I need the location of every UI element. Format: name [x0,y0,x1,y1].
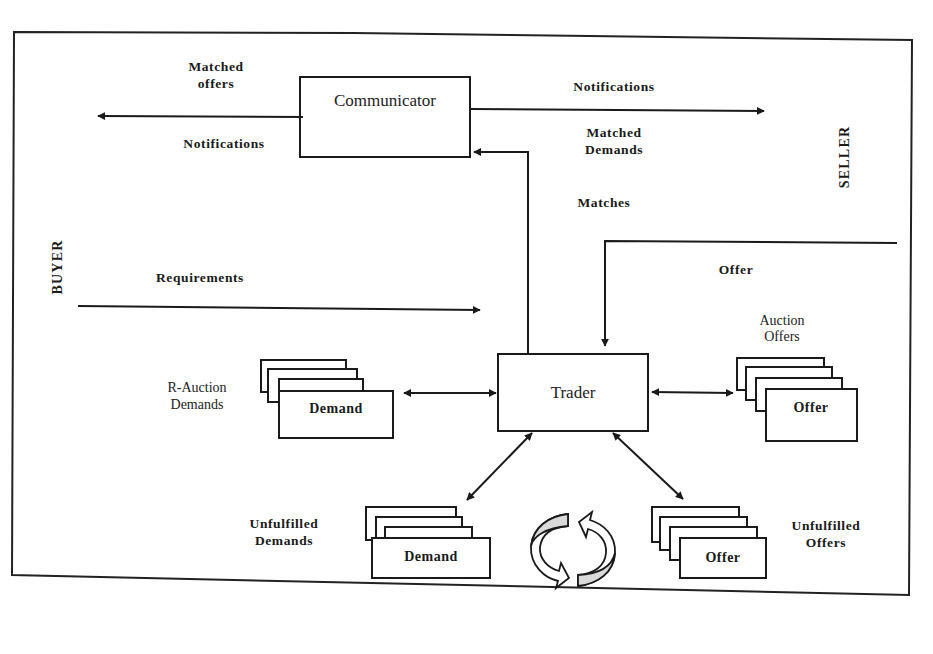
unfulfilled-demands-caption-1: Unfulfilled [250,516,319,531]
auction-offers-caption-2: Offers [764,329,800,344]
unfulfilled-demand-card-label: Demand [404,549,458,564]
trader-unfulfilled-offers-arrow [613,433,683,499]
unfulfilled-offers-store: Offer Unfulfilled Offers [652,507,860,578]
offer-label: Offer [719,262,753,277]
auction-offer-card-label: Offer [793,400,828,415]
r-auction-demands-caption-1: R-Auction [167,380,226,395]
r-auction-demand-card-label: Demand [309,401,363,416]
flow-requirements: Requirements [78,270,480,310]
unfulfilled-offers-caption-2: Offers [806,535,846,550]
buyer-label: BUYER [50,239,65,294]
seller-label: SELLER [837,126,852,188]
trading-system-diagram: BUYER SELLER Communicator Matched offers… [0,0,933,654]
r-auction-demands-caption-2: Demands [171,397,224,412]
auction-offers-caption-1: Auction [759,313,804,328]
trader-offer-arrow [652,392,733,393]
flow-offer: Offer [605,241,897,346]
unfulfilled-offers-caption-1: Unfulfilled [792,518,861,533]
notifications-right-label: Notifications [573,79,654,94]
unfulfilled-demands-store: Demand Unfulfilled Demands [250,507,490,578]
flow-matches: Matches [474,152,630,353]
r-auction-demands-store: Demand R-Auction Demands [167,360,393,438]
trader-unfulfilled-demands-arrow [467,433,532,500]
unfulfilled-demands-caption-2: Demands [255,533,313,548]
matched-demands-label-1: Matched [586,125,641,140]
requirements-label: Requirements [156,270,244,285]
auction-offers-store: Offer Auction Offers [737,313,857,441]
communicator-box: Communicator [300,77,470,157]
trader-box: Trader [498,354,648,431]
matches-label: Matches [578,195,631,210]
flow-to-seller: Notifications Matched Demands [471,79,764,157]
communicator-title: Communicator [334,91,436,110]
flow-to-buyer: Matched offers Notifications [98,59,303,151]
notifications-left-label: Notifications [183,136,264,151]
matched-demands-label-2: Demands [585,142,643,157]
unfulfilled-offer-card-label: Offer [705,550,740,565]
refresh-cycle-icon [531,512,615,588]
trader-title: Trader [551,383,596,402]
matched-offers-label-2: offers [198,76,235,91]
matched-offers-label-1: Matched [188,59,243,74]
